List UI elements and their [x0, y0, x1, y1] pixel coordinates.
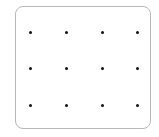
dot-grid-panel[interactable] [15, 6, 151, 129]
grid-dot [101, 31, 104, 34]
grid-dot [29, 31, 32, 34]
grid-dot [136, 67, 139, 70]
grid-dot [101, 67, 104, 70]
grid-dot [136, 31, 139, 34]
grid-dot [65, 67, 68, 70]
grid-dot [29, 104, 32, 107]
grid-dot [65, 104, 68, 107]
grid-dot [65, 31, 68, 34]
grid-dot [101, 104, 104, 107]
grid-dot [29, 67, 32, 70]
grid-dot [136, 104, 139, 107]
